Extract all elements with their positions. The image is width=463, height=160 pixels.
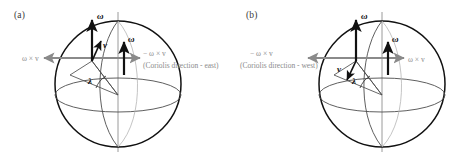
panel-a-drawing: λ ω ω v ω × v − ω × v (Coriolis directio… xyxy=(0,0,231,160)
minus-omega-cross-v-right-label: − ω × v xyxy=(143,49,166,58)
omega-local-label: ω xyxy=(128,34,135,44)
lambda-angle-label: λ xyxy=(87,76,92,86)
meridian-arc-front xyxy=(364,21,382,147)
omega-polar-label: ω xyxy=(97,11,104,21)
lambda-angle-label: λ xyxy=(351,76,356,86)
omega-polar-label: ω xyxy=(361,11,368,21)
omega-cross-v-left-label: ω × v xyxy=(22,54,39,63)
omega-local-label: ω xyxy=(392,34,399,44)
coriolis-direction-annotation: (Coriolis direction - west) xyxy=(240,61,318,70)
panel-b: (b) λ ω ω xyxy=(232,0,463,160)
velocity-label: v xyxy=(337,64,342,74)
omega-cross-v-right-label: ω × v xyxy=(408,55,425,64)
panel-b-drawing: λ ω ω v − ω × v (Coriolis direction - we… xyxy=(232,0,463,160)
panel-a: (a) λ xyxy=(0,0,231,160)
coriolis-direction-annotation: (Coriolis direction - east) xyxy=(143,61,219,70)
minus-omega-cross-v-left-label: − ω × v xyxy=(250,49,273,58)
coriolis-figure: (a) λ xyxy=(0,0,463,160)
